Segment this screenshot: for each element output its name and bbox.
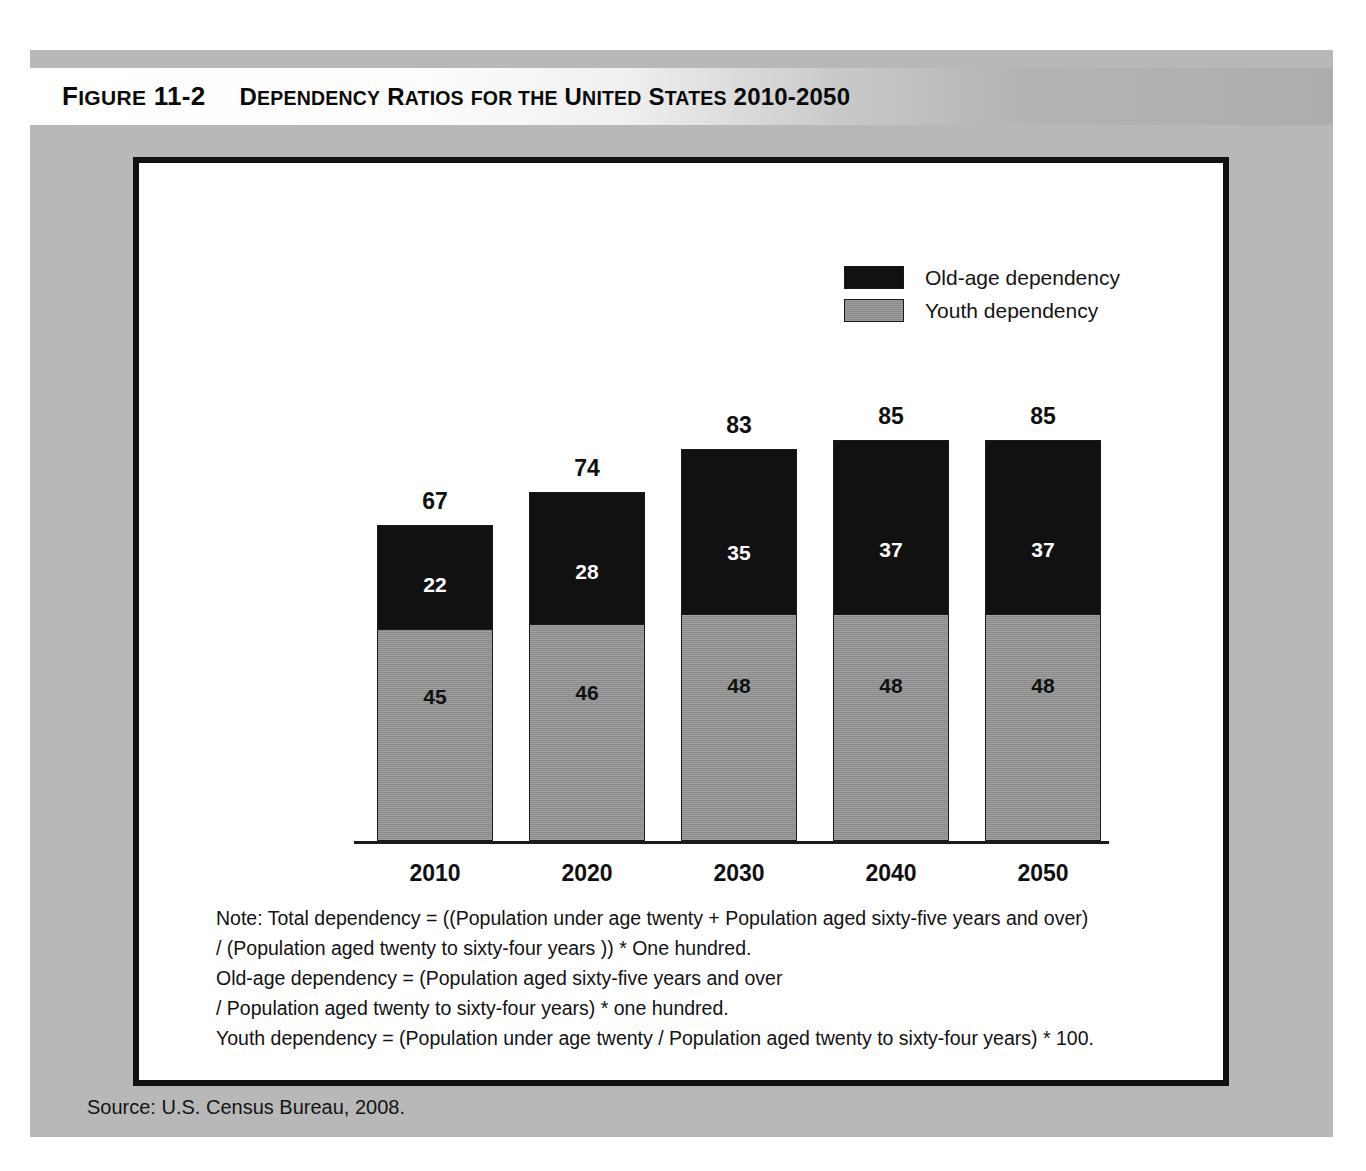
x-tick-label-2030: 2030 [675,860,803,887]
bar-total-label-2040: 85 [833,403,949,430]
note-line-3: Old-age dependency = (Population aged si… [216,963,1216,993]
figure-title: DEPENDENCY RATIOS FOR THE UNITED STATES … [240,83,851,111]
bar-value-youth-2050: 48 [1031,674,1054,698]
plot-area: Old-age dependency Youth dependency 67 2… [139,163,1223,1080]
bar-segment-youth-2040[interactable]: 48 [833,614,949,841]
bar-segment-old-age-2050[interactable]: 37 [985,440,1101,615]
legend-item-old-age: Old-age dependency [844,261,1120,294]
bar-total-label-2050: 85 [985,403,1101,430]
figure-title-band: FIGURE 11-2 DEPENDENCY RATIOS FOR THE UN… [30,68,1333,125]
legend-label-old-age: Old-age dependency [925,266,1120,290]
legend-item-youth: Youth dependency [844,294,1120,327]
bar-segment-old-age-2020[interactable]: 28 [529,492,645,624]
bar-value-old-age-2040: 37 [879,538,902,562]
x-tick-label-2010: 2010 [371,860,499,887]
bar-total-label-2010: 67 [377,488,493,515]
bar-value-youth-2040: 48 [879,674,902,698]
x-tick-label-2040: 2040 [827,860,955,887]
bar-segment-old-age-2010[interactable]: 22 [377,525,493,629]
bar-value-youth-2020: 46 [575,681,598,705]
chart-legend: Old-age dependency Youth dependency [844,261,1120,327]
source-line: Source: U.S. Census Bureau, 2008. [87,1096,405,1119]
note-line-4: / Population aged twenty to sixty-four y… [216,993,1216,1023]
bar-value-youth-2010: 45 [423,685,446,709]
bar-value-youth-2030: 48 [727,674,750,698]
x-axis-line [354,841,1109,844]
chart-note: Note: Total dependency = ((Population un… [216,903,1216,1053]
bar-group-2040[interactable]: 85 37 48 2040 [833,440,949,841]
bar-segment-old-age-2030[interactable]: 35 [681,449,797,614]
note-line-2: / (Population aged twenty to sixty-four … [216,933,1216,963]
bar-segment-youth-2010[interactable]: 45 [377,629,493,841]
bar-segment-youth-2020[interactable]: 46 [529,624,645,841]
figure-panel: FIGURE 11-2 DEPENDENCY RATIOS FOR THE UN… [30,50,1333,1137]
legend-swatch-youth-icon [844,299,904,322]
bar-value-old-age-2020: 28 [575,560,598,584]
legend-swatch-old-age-icon [844,266,904,289]
bar-segment-youth-2050[interactable]: 48 [985,614,1101,841]
figure-number: FIGURE 11-2 [62,81,206,112]
bar-total-label-2020: 74 [529,455,645,482]
x-tick-label-2020: 2020 [523,860,651,887]
x-tick-label-2050: 2050 [979,860,1107,887]
chart-frame: Old-age dependency Youth dependency 67 2… [133,157,1229,1086]
bar-value-old-age-2010: 22 [423,573,446,597]
legend-label-youth: Youth dependency [925,299,1098,323]
bar-value-old-age-2050: 37 [1031,538,1054,562]
bar-value-old-age-2030: 35 [727,541,750,565]
bar-total-label-2030: 83 [681,412,797,439]
note-line-1: Note: Total dependency = ((Population un… [216,903,1216,933]
bar-group-2020[interactable]: 74 28 46 2020 [529,492,645,841]
note-line-5: Youth dependency = (Population under age… [216,1023,1216,1053]
bar-group-2050[interactable]: 85 37 48 2050 [985,440,1101,841]
bar-group-2030[interactable]: 83 35 48 2030 [681,449,797,841]
bar-segment-old-age-2040[interactable]: 37 [833,440,949,615]
bar-group-2010[interactable]: 67 22 45 2010 [377,525,493,841]
bar-segment-youth-2030[interactable]: 48 [681,614,797,841]
